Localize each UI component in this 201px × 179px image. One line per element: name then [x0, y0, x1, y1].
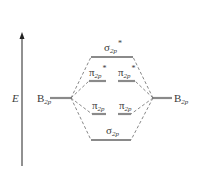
sigma-label: σ2p — [106, 124, 119, 138]
pi-right-label: π2p — [119, 99, 132, 113]
left-ao-label: B2p — [37, 92, 52, 106]
dash-right-pi-star — [135, 81, 153, 98]
dash-left-sigma — [71, 98, 91, 140]
mo-sigma-2p: σ2p — [91, 124, 131, 140]
mo-diagram: E B2p B2p σ2p* π2p* π2p* π2p π2p — [0, 0, 201, 179]
right-atomic-orbital: B2p — [153, 92, 189, 106]
mo-sigma-2p-star: σ2p* — [91, 39, 133, 57]
right-ao-label: B2p — [174, 92, 189, 106]
mo-pi-2p-star: π2p* π2p* — [89, 64, 136, 81]
mo-pi-2p: π2p π2p — [92, 99, 132, 114]
sigma-star-label: σ2p* — [104, 39, 122, 55]
correlation-lines — [71, 57, 153, 140]
dash-left-pi-star — [71, 81, 89, 98]
arrow-up-icon — [20, 32, 25, 39]
dash-left-sigma-star — [71, 57, 91, 98]
pi-star-left-label: π2p* — [89, 64, 107, 80]
energy-axis-label: E — [11, 92, 19, 104]
dash-right-pi — [131, 98, 153, 114]
pi-star-right-label: π2p* — [118, 64, 136, 80]
dash-left-pi — [71, 98, 92, 114]
energy-axis: E — [11, 32, 25, 166]
left-atomic-orbital: B2p — [37, 92, 71, 106]
dash-right-sigma — [131, 98, 153, 140]
pi-left-label: π2p — [92, 99, 105, 113]
dash-right-sigma-star — [133, 57, 153, 98]
